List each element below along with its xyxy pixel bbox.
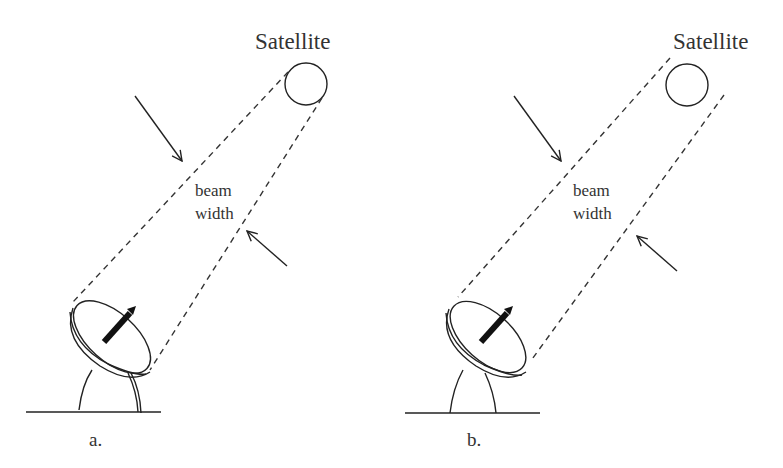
beam-width-arrow-upper	[135, 96, 182, 161]
panel-label-a: a.	[89, 429, 102, 450]
satellite-label: Satellite	[673, 29, 748, 54]
dish-antenna-icon	[438, 288, 538, 413]
satellite-icon	[285, 63, 327, 105]
beam-label: beam	[573, 181, 610, 200]
beam-width-arrow-lower	[247, 231, 287, 266]
dish-antenna-icon	[61, 288, 163, 413]
width-label: width	[573, 204, 612, 223]
beam-edge-lower	[150, 98, 322, 370]
beam-width-arrow-upper	[514, 96, 561, 161]
satellite-icon	[666, 64, 708, 106]
beam-width-arrow-lower	[637, 236, 677, 271]
panel-b: Satellite beam width b.	[405, 29, 748, 450]
panel-a: Satellite beam width	[26, 29, 330, 450]
satellite-label: Satellite	[255, 29, 330, 54]
beam-edge-upper	[73, 72, 288, 302]
beam-width-diagram: Satellite beam width	[0, 0, 783, 468]
panel-label-b: b.	[467, 429, 481, 450]
beam-edge-lower	[530, 95, 724, 362]
beam-label: beam	[195, 181, 232, 200]
beam-edge-upper	[458, 58, 670, 297]
width-label: width	[195, 204, 234, 223]
